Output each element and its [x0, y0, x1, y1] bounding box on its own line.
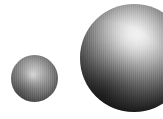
large-sphere-shadow-terminator [80, 4, 163, 112]
small-sphere [11, 55, 58, 102]
small-sphere-dither-banding [11, 55, 58, 102]
small-sphere-shadow-terminator [11, 55, 58, 102]
large-sphere [80, 4, 163, 112]
sphere-scene [0, 0, 163, 119]
large-sphere-dither-banding [80, 4, 163, 112]
